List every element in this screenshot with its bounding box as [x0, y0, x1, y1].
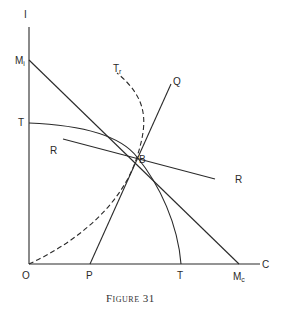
label-t-top: T: [18, 117, 24, 128]
curve-tr-dashed: [29, 73, 144, 264]
label-origin-o: O: [22, 270, 30, 281]
label-mc: Mc: [233, 271, 245, 283]
label-axis-c: C: [262, 259, 269, 270]
label-b: B: [139, 154, 146, 165]
label-r-right: R: [235, 174, 242, 185]
label-tr: Tr: [113, 63, 122, 75]
label-q: Q: [173, 76, 181, 87]
label-axis-i: I: [24, 9, 27, 20]
figure-caption: Figure 31: [106, 292, 155, 304]
figure-31-diagram: I Mi T R Tr Q B R O P T Mc C Figure 31: [0, 0, 281, 317]
label-t-bottom: T: [177, 270, 183, 281]
label-p: P: [86, 270, 93, 281]
label-r-left: R: [50, 145, 57, 156]
label-mi: Mi: [15, 55, 25, 67]
